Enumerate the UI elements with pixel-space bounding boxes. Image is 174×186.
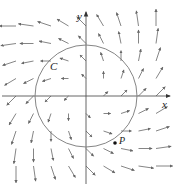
curve-label: C [50,61,57,72]
field-arrow [121,111,130,114]
field-arrow [26,96,34,104]
field-arrow [104,131,113,134]
field-arrow [86,166,95,175]
field-arrow [69,149,74,159]
field-arrow [156,48,160,61]
field-arrow [86,114,90,118]
field-arrow [139,109,149,114]
field-arrow [121,90,127,96]
field-arrow [104,92,108,96]
field-arrow [51,149,53,161]
y-axis-label: y [77,11,82,22]
x-axis-label: x [162,99,167,110]
field-arrow [117,13,121,26]
field-arrow [42,79,51,82]
field-arrow [3,61,16,65]
field-arrow [24,79,34,84]
field-arrow [57,19,68,26]
field-arrow [121,70,124,79]
field-arrow [12,131,16,144]
point-label: P [119,136,125,146]
field-arrow [69,131,72,140]
field-arrow [156,146,171,148]
field-arrow [156,28,158,43]
field-arrow [139,69,144,79]
field-arrow [45,96,51,102]
field-arrow [86,149,94,157]
field-arrow [156,87,165,96]
field-arrow [139,49,141,61]
field-arrow [121,149,133,151]
vector-field-diagram: y x C P [0,0,174,186]
field-arrow [38,22,51,26]
field-arrow [82,74,86,78]
field-arrow [48,114,51,123]
field-arrow [136,11,138,26]
field-arrow [121,166,134,170]
field-arrow [104,166,115,173]
field-arrow [1,44,16,46]
field-arrow [119,32,121,44]
field-arrow [59,39,69,44]
field-arrow [139,166,154,168]
field-arrow [104,149,114,154]
field-arrow [80,55,86,61]
field-arrow [5,79,16,86]
field-arrow [34,166,36,181]
field-arrow [51,166,55,179]
point-p [113,141,117,145]
field-arrow [60,58,69,61]
field-arrow [64,96,68,100]
field-arrow [14,149,16,164]
field-arrow [9,114,16,125]
field-arrow [86,131,92,137]
field-arrow [7,96,16,105]
field-arrow [29,114,34,124]
field-arrow [139,88,147,96]
field-arrow [69,166,76,177]
field-arrow [99,34,104,44]
vector-field-plot [0,0,174,186]
field-arrow [139,129,151,131]
field-arrow [22,61,34,63]
field-arrow [156,127,169,131]
field-arrow [97,15,104,26]
field-arrow [78,36,86,44]
field-arrow [101,52,104,61]
field-arrow [31,131,33,143]
field-arrow [39,41,51,43]
field-arrow [156,67,163,78]
field-arrow [18,24,33,26]
